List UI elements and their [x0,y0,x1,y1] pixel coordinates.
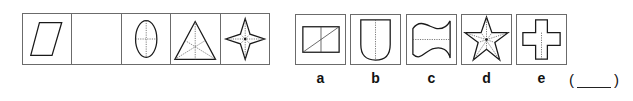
option-a[interactable] [295,14,346,65]
option-e[interactable] [516,14,567,65]
sequence-cell-5 [221,14,269,64]
answer-blank-line[interactable] [577,87,611,88]
answer-field[interactable]: ( ) [567,70,621,92]
cross-icon [517,15,566,64]
close-paren: ) [614,71,619,88]
sequence-strip [22,13,270,65]
sequence-cell-4 [171,14,220,64]
triangle-icon [171,14,219,64]
option-e-label: e [516,70,567,86]
shield-icon [351,15,400,64]
sequence-cell-1 [23,14,72,64]
open-paren: ( [569,71,574,88]
option-d-box[interactable] [461,14,512,65]
option-c[interactable] [406,14,457,65]
parallelogram-icon [23,14,71,64]
sequence-cell-3 [122,14,171,64]
five-pointed-star-icon [462,15,511,64]
option-d-label: d [461,70,512,86]
option-e-box[interactable] [516,14,567,65]
option-b[interactable] [350,14,401,65]
rectangle-diagonal-icon [296,15,345,64]
option-c-box[interactable] [406,14,457,65]
option-b-label: b [350,70,401,86]
four-pointed-star-icon [221,14,269,64]
option-d[interactable] [461,14,512,65]
option-a-label: a [295,70,346,86]
option-b-box[interactable] [350,14,401,65]
sequence-cell-2-blank[interactable] [72,14,121,64]
ellipse-icon [122,14,170,64]
option-a-box[interactable] [295,14,346,65]
option-c-label: c [406,70,457,86]
wave-flag-icon [407,15,456,64]
